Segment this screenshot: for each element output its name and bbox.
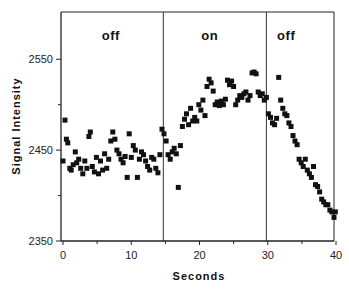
data-point	[117, 151, 122, 156]
data-point	[295, 142, 300, 147]
data-point	[200, 98, 205, 103]
data-point	[229, 79, 234, 84]
data-point	[172, 146, 177, 151]
data-point	[291, 133, 296, 138]
data-point	[151, 157, 156, 162]
data-point	[121, 160, 126, 165]
data-point	[147, 168, 152, 173]
y-tick-label-2550: 2550	[29, 53, 53, 65]
x-tick-label-20: 20	[193, 249, 205, 261]
data-point	[133, 148, 138, 153]
data-point	[180, 124, 185, 129]
data-point	[125, 175, 130, 180]
data-point	[157, 152, 162, 157]
data-point	[284, 113, 289, 118]
region-label-2: off	[277, 28, 295, 43]
data-point	[90, 164, 95, 169]
data-point	[174, 151, 179, 156]
data-point	[73, 149, 78, 154]
data-point	[153, 166, 158, 171]
region-label-0: off	[102, 28, 120, 43]
data-point	[278, 98, 283, 103]
data-point	[80, 171, 85, 176]
data-point	[160, 127, 165, 132]
data-point	[246, 98, 251, 103]
data-point	[76, 157, 81, 162]
x-tick-label-10: 10	[125, 249, 137, 261]
y-tick-label-2450: 2450	[29, 144, 53, 156]
x-tick-label-40: 40	[330, 249, 342, 261]
data-point	[129, 155, 134, 160]
data-point	[196, 102, 201, 107]
data-point	[315, 184, 320, 189]
data-point	[127, 131, 132, 136]
data-point	[268, 115, 273, 120]
data-point	[311, 164, 316, 169]
data-point	[223, 97, 228, 102]
phase-dividers	[163, 12, 266, 241]
data-point	[84, 166, 89, 171]
data-point	[141, 152, 146, 157]
data-point	[104, 166, 109, 171]
data-point	[184, 111, 189, 116]
data-point	[231, 84, 236, 89]
data-point	[303, 157, 308, 162]
data-point	[289, 124, 294, 129]
y-tick-label-2350: 2350	[29, 235, 53, 247]
x-axis-title: Seconds	[173, 270, 226, 282]
data-point	[211, 89, 216, 94]
data-point	[317, 189, 322, 194]
data-point	[61, 159, 66, 164]
x-tick-label-0: 0	[60, 249, 66, 261]
data-point	[155, 170, 160, 175]
y-axis-title: Signal Intensity	[10, 77, 22, 174]
x-axis-ticks: 010203040	[60, 241, 342, 261]
chart: offonoff 235024502550 010203040 Seconds …	[0, 0, 349, 291]
data-point	[254, 71, 259, 76]
data-point	[280, 106, 285, 111]
data-point	[333, 209, 338, 214]
data-point	[98, 159, 103, 164]
data-point	[106, 157, 111, 162]
data-point	[248, 93, 253, 98]
data-point	[102, 151, 107, 156]
data-point	[188, 106, 193, 111]
data-point	[264, 95, 269, 100]
data-point	[143, 159, 148, 164]
data-point	[131, 143, 136, 148]
data-point	[276, 75, 281, 80]
data-point	[65, 140, 70, 145]
data-point	[194, 119, 199, 124]
data-point	[272, 122, 277, 127]
x-tick-label-30: 30	[262, 249, 274, 261]
data-point	[198, 108, 203, 113]
y-axis-ticks: 235024502550	[29, 53, 61, 247]
data-point	[274, 116, 279, 121]
region-label-1: on	[201, 28, 218, 43]
data-point	[137, 157, 142, 162]
data-point	[82, 159, 87, 164]
data-point	[168, 157, 173, 162]
data-point	[162, 131, 167, 136]
data-points	[61, 70, 338, 220]
data-point	[176, 185, 181, 190]
data-point	[164, 139, 169, 144]
data-point	[63, 118, 68, 123]
data-point	[233, 102, 238, 107]
data-point	[78, 166, 83, 171]
data-point	[209, 80, 214, 85]
data-point	[135, 175, 140, 180]
data-point	[69, 168, 74, 173]
data-point	[221, 102, 226, 107]
data-point	[309, 175, 314, 180]
data-point	[182, 117, 187, 122]
data-point	[325, 202, 330, 207]
data-point	[203, 113, 208, 118]
data-point	[88, 130, 93, 135]
data-point	[110, 130, 115, 135]
data-point	[178, 143, 183, 148]
data-point	[112, 137, 117, 142]
data-point	[332, 215, 337, 220]
data-point	[86, 134, 91, 139]
data-point	[123, 154, 128, 159]
